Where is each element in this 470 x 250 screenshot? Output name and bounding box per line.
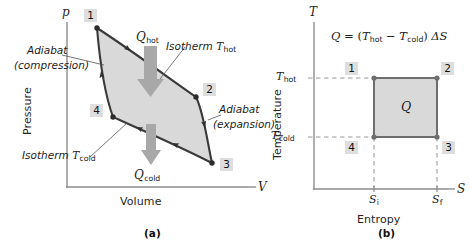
volume-axis-name: Volume <box>120 196 162 207</box>
equation-t-hot-symbol: T <box>362 29 370 43</box>
tick-label-t-cold: Tcold <box>271 130 295 141</box>
state-badge-b-1: 1 <box>345 62 358 75</box>
state-badge-b-3: 3 <box>442 141 455 154</box>
corner-dot-1 <box>371 75 376 80</box>
tick-s-f-subscript: f <box>440 198 443 207</box>
equation-t-hot-subscript: hot <box>370 35 383 44</box>
tick-s-i-symbol: S <box>369 193 377 206</box>
isotherm-cold-label: Isotherm Tcold <box>22 150 95 161</box>
tick-t-hot-symbol: T <box>276 70 283 83</box>
adiabat-compression-label-line2: (compression) <box>14 60 89 71</box>
panel-b-caption: (b) <box>378 228 395 239</box>
tick-s-i-subscript: i <box>377 198 379 207</box>
tick-label-t-hot: Thot <box>276 71 296 82</box>
pressure-axis-name: Pressure <box>22 87 33 135</box>
adiabat-expansion-label-line1: Adiabat <box>219 104 259 115</box>
tick-s-f-symbol: S <box>432 193 440 206</box>
tick-label-s-i: Si <box>369 194 379 205</box>
isotherm-cold-word: Isotherm <box>22 149 69 161</box>
q-hot-label: Qhot <box>136 31 159 43</box>
q-cold-subscript: cold <box>144 174 160 183</box>
state-dot-1 <box>94 25 99 30</box>
state-badge-a-4: 4 <box>90 104 103 117</box>
corner-dot-4 <box>371 134 376 139</box>
adiabat-compression-label-line1: Adiabat <box>27 45 67 56</box>
state-badge-b-4: 4 <box>345 141 358 154</box>
heat-equation: Q = (Thot − Tcold) ΔS <box>331 31 448 43</box>
state-badge-a-1: 1 <box>84 9 97 22</box>
equation-t-cold-subscript: cold <box>407 35 423 44</box>
heat-area-label: Q <box>401 101 411 114</box>
corner-dot-2 <box>434 75 439 80</box>
temperature-axis-name: Temperature <box>272 89 283 160</box>
equation-equals: = <box>344 29 354 43</box>
equation-t-cold-symbol: T <box>399 29 407 43</box>
q-cold-label: Qcold <box>134 169 160 181</box>
entropy-axis-symbol: S <box>457 183 465 195</box>
q-cold-symbol: Q <box>134 168 144 182</box>
equation-minus: − <box>386 29 396 43</box>
equation-delta-s: ΔS <box>431 29 447 43</box>
tick-label-s-f: Sf <box>432 194 442 205</box>
q-hot-subscript: hot <box>146 36 159 45</box>
state-badge-b-2: 2 <box>441 62 454 75</box>
leader-isotherm-cold <box>90 124 126 157</box>
tick-t-cold-symbol: T <box>271 129 278 142</box>
state-dot-2 <box>193 94 198 99</box>
carnot-cycle-figure: p Pressure Volume V Adiabat (compression… <box>0 0 470 250</box>
tick-t-hot-subscript: hot <box>284 75 297 84</box>
temperature-axis-symbol: T <box>309 6 317 18</box>
state-badge-a-2: 2 <box>203 83 216 96</box>
q-hot-symbol: Q <box>136 30 146 44</box>
pressure-axis-symbol: p <box>62 6 70 18</box>
adiabat-expansion-label-line2: (expansion) <box>213 119 275 130</box>
state-dot-3 <box>209 160 214 165</box>
isotherm-hot-word: Isotherm <box>166 40 213 52</box>
isotherm-hot-subscript: hot <box>223 45 236 54</box>
tick-t-cold-subscript: cold <box>279 134 295 143</box>
panel-a-caption: (a) <box>144 228 161 239</box>
state-dot-4 <box>110 114 115 119</box>
isotherm-hot-label: Isotherm Thot <box>166 41 236 52</box>
entropy-axis-name: Entropy <box>357 214 400 225</box>
volume-axis-symbol: V <box>258 181 267 193</box>
corner-dot-3 <box>434 134 439 139</box>
state-badge-a-3: 3 <box>220 158 233 171</box>
isotherm-cold-subscript: cold <box>79 154 95 163</box>
